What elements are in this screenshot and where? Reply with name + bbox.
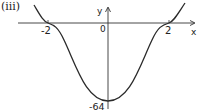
x-tick-label-pos2: 2 bbox=[165, 25, 171, 36]
curve bbox=[34, 3, 185, 101]
sketch-canvas: -2 2 0 y x -64 bbox=[0, 0, 201, 112]
curve-sketch: -2 2 0 y x -64 bbox=[0, 0, 201, 112]
x-tick-label-neg2: -2 bbox=[41, 25, 51, 36]
min-value-label: -64 bbox=[89, 101, 105, 112]
origin-label: 0 bbox=[100, 24, 106, 34]
y-axis-label: y bbox=[97, 6, 103, 16]
x-axis-label: x bbox=[191, 27, 197, 37]
